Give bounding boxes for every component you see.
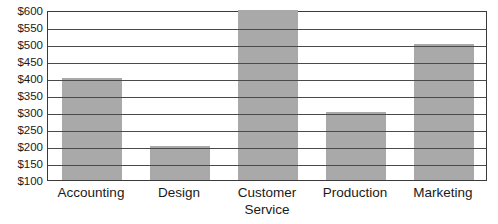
- y-axis-tick-label: $200: [0, 142, 43, 154]
- y-axis-tick-label: $100: [0, 176, 43, 188]
- y-axis-tick-label: $500: [0, 40, 43, 52]
- y-axis: $600$550$500$450$400$350$300$250$200$150…: [0, 0, 43, 224]
- bar: [150, 146, 210, 180]
- x-axis-category-label: Accounting: [47, 184, 135, 201]
- y-axis-tick-label: $600: [0, 6, 43, 18]
- x-axis-category-line: Service: [223, 201, 311, 218]
- x-axis-category-label: Design: [135, 184, 223, 201]
- x-axis-category-line: Production: [311, 184, 399, 201]
- x-axis-category-label: Production: [311, 184, 399, 201]
- y-axis-tick-label: $450: [0, 57, 43, 69]
- y-axis-tick-label: $350: [0, 91, 43, 103]
- x-axis-category-label: CustomerService: [223, 184, 311, 218]
- x-axis-category-line: Customer: [223, 184, 311, 201]
- bar: [238, 10, 298, 180]
- x-axis-category-line: Design: [135, 184, 223, 201]
- y-axis-tick-label: $300: [0, 108, 43, 120]
- chart-plot-area: [47, 11, 487, 181]
- gridline: [48, 182, 486, 183]
- y-axis-tick-label: $400: [0, 74, 43, 86]
- y-axis-tick-label: $550: [0, 23, 43, 35]
- bar: [62, 78, 122, 180]
- x-axis-category-label: Marketing: [399, 184, 487, 201]
- bar: [414, 44, 474, 180]
- x-axis-category-line: Accounting: [47, 184, 135, 201]
- x-axis: AccountingDesignCustomerServiceProductio…: [47, 184, 487, 224]
- bar: [326, 112, 386, 180]
- bars-group: [48, 12, 486, 180]
- y-axis-tick-label: $150: [0, 159, 43, 171]
- x-axis-category-line: Marketing: [399, 184, 487, 201]
- y-axis-tick-label: $250: [0, 125, 43, 137]
